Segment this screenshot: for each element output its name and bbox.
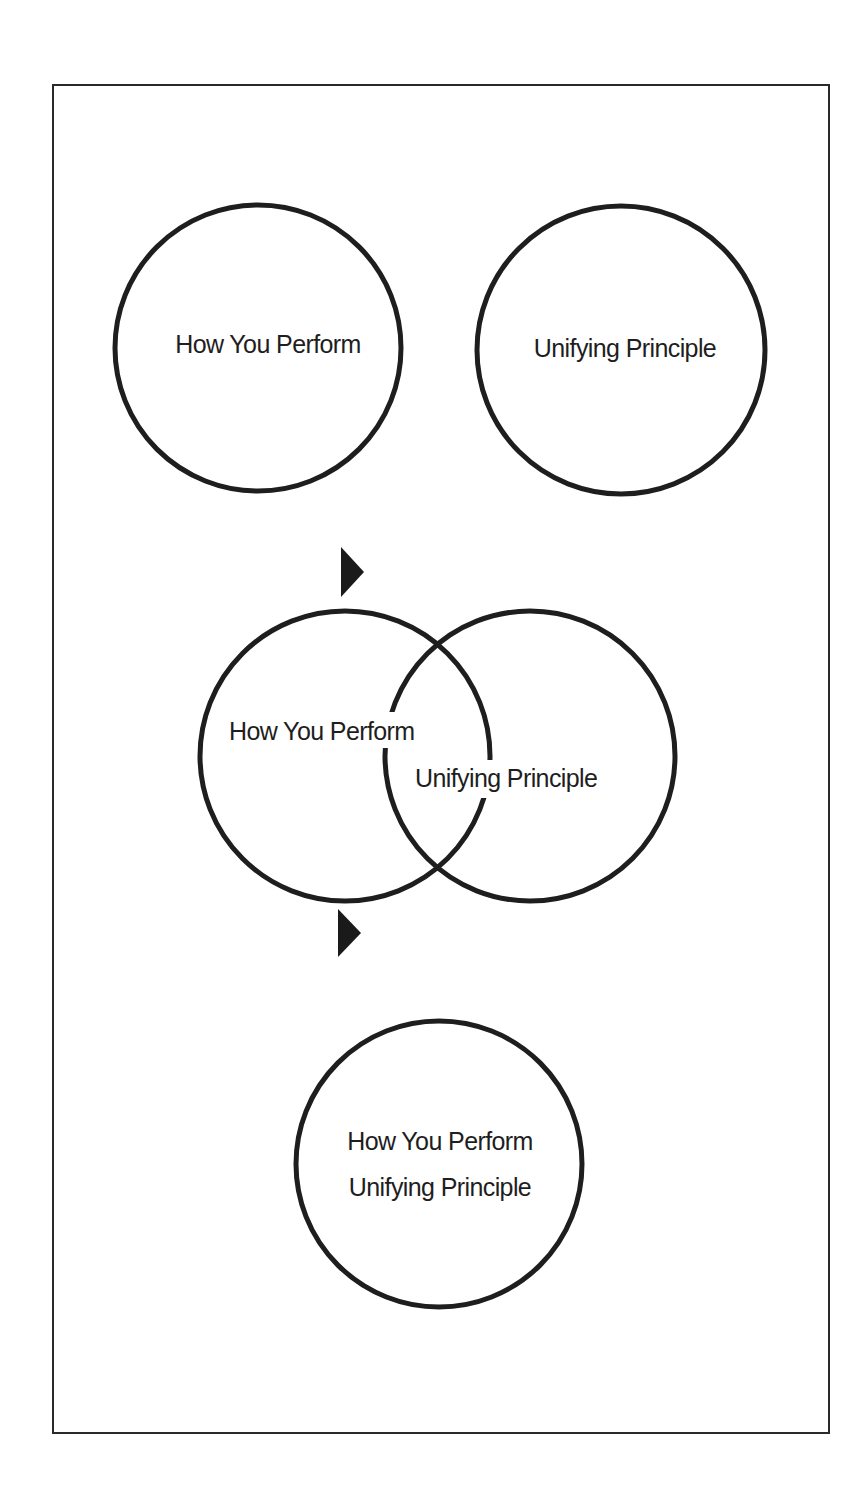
stage-1-separate-circles: How You Perform Unifying Principle bbox=[115, 205, 765, 494]
stage-3-merged-circle: How You Perform Unifying Principle bbox=[296, 1021, 582, 1307]
right-triangle-arrow-icon bbox=[341, 547, 364, 597]
right-triangle-arrow-icon bbox=[338, 909, 361, 957]
unifying-principle-circle-overlap bbox=[385, 611, 675, 901]
merged-circle bbox=[296, 1021, 582, 1307]
how-you-perform-label-overlap: How You Perform bbox=[229, 717, 415, 745]
stage-2-overlapping-circles: How You Perform Unifying Principle bbox=[200, 611, 675, 901]
merged-label-line2: Unifying Principle bbox=[349, 1173, 531, 1201]
unifying-principle-label: Unifying Principle bbox=[534, 334, 716, 362]
how-you-perform-circle-overlap bbox=[200, 611, 490, 901]
how-you-perform-label: How You Perform bbox=[175, 330, 361, 358]
venn-progression-diagram: How You Perform Unifying Principle How Y… bbox=[0, 0, 868, 1507]
merged-label-line1: How You Perform bbox=[347, 1127, 533, 1155]
unifying-principle-label-overlap: Unifying Principle bbox=[415, 764, 597, 792]
